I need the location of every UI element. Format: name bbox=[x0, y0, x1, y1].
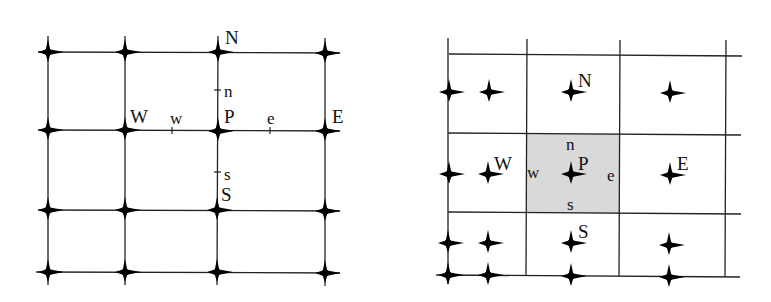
node-icon bbox=[438, 262, 464, 285]
node-icon bbox=[659, 232, 685, 255]
grid-line-v3 bbox=[217, 36, 218, 285]
node-icon bbox=[479, 79, 505, 102]
label-face-n: n bbox=[566, 135, 575, 154]
cv-face-v3 bbox=[619, 40, 620, 276]
node-icon bbox=[478, 262, 504, 285]
node-icon bbox=[660, 80, 686, 103]
node-icon bbox=[315, 260, 341, 283]
label-node-E: E bbox=[332, 106, 344, 127]
label-node-S: S bbox=[578, 221, 589, 242]
node-icon bbox=[439, 161, 465, 184]
label-node-P: P bbox=[578, 153, 589, 174]
label-node-E: E bbox=[677, 153, 689, 174]
label-node-S: S bbox=[221, 184, 232, 205]
grid-line-h2 bbox=[38, 130, 340, 131]
node-icon bbox=[115, 197, 141, 220]
node-icon bbox=[38, 117, 64, 140]
grid-line-h4 bbox=[36, 272, 340, 273]
label-face-w: w bbox=[170, 109, 183, 128]
node-icon bbox=[438, 230, 464, 253]
node-icon bbox=[315, 198, 341, 221]
node-icon bbox=[38, 197, 64, 220]
grid-line-h1 bbox=[38, 52, 340, 53]
fvm-stencil-figure: N n W w P e E s S bbox=[0, 0, 771, 302]
label-node-W: W bbox=[130, 106, 148, 127]
label-node-P: P bbox=[224, 106, 235, 127]
label-face-e: e bbox=[607, 166, 615, 185]
label-face-s: s bbox=[567, 195, 574, 214]
label-face-w: w bbox=[527, 163, 540, 182]
grid-nodes bbox=[38, 39, 341, 283]
node-icon bbox=[38, 39, 64, 62]
label-node-N: N bbox=[225, 27, 239, 48]
node-icon bbox=[207, 259, 233, 282]
cv-face-v4 bbox=[725, 40, 726, 277]
cv-face-v2 bbox=[526, 39, 527, 275]
label-node-W: W bbox=[494, 153, 512, 174]
node-icon bbox=[38, 259, 64, 282]
node-icon bbox=[561, 263, 587, 286]
cv-face-h1 bbox=[449, 54, 742, 56]
label-face-e: e bbox=[267, 109, 275, 128]
grid-line-h3 bbox=[38, 210, 340, 211]
node-icon bbox=[659, 264, 685, 287]
node-icon bbox=[115, 259, 141, 282]
label-face-s: s bbox=[224, 165, 231, 184]
node-icon bbox=[315, 40, 341, 63]
label-face-n: n bbox=[224, 82, 233, 101]
right-panel-control-volumes: N n W w P e E s S bbox=[436, 38, 742, 287]
node-icon bbox=[439, 79, 465, 102]
node-icon bbox=[478, 230, 504, 253]
left-panel-grid: N n W w P e E s S bbox=[36, 27, 344, 286]
label-node-N: N bbox=[578, 70, 592, 91]
node-icon bbox=[115, 39, 141, 62]
